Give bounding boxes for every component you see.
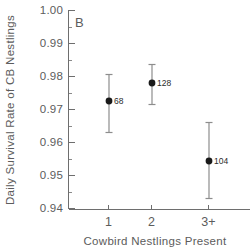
y-tick-label: 0.97 bbox=[40, 103, 63, 115]
y-axis-tick-labels: 1.00 0.99 0.98 0.97 0.96 0.95 0.94 bbox=[40, 4, 64, 214]
data-point-label: 104 bbox=[214, 156, 228, 166]
y-tick-label: 0.96 bbox=[40, 136, 63, 148]
y-axis-title: Daily Survival Rate of CB Nestlings bbox=[4, 15, 16, 205]
data-series: 68 128 104 bbox=[106, 64, 229, 199]
y-tick-label: 1.00 bbox=[40, 4, 63, 16]
data-marker bbox=[149, 80, 156, 87]
panel-label: B bbox=[75, 15, 84, 30]
data-point-group: 68 bbox=[106, 74, 124, 133]
x-axis-ticks bbox=[109, 205, 209, 210]
x-tick-label: 3+ bbox=[201, 215, 216, 229]
y-tick-label: 0.94 bbox=[40, 202, 64, 214]
x-tick-label: 2 bbox=[148, 215, 155, 229]
x-tick-label: 1 bbox=[105, 215, 112, 229]
y-tick-label: 0.98 bbox=[40, 70, 63, 82]
x-axis-title: Cowbird Nestlings Present bbox=[83, 235, 227, 247]
y-axis-major-ticks bbox=[69, 11, 75, 209]
data-point-label: 68 bbox=[114, 96, 124, 106]
data-point-group: 104 bbox=[206, 122, 229, 199]
data-point-label: 128 bbox=[157, 78, 171, 88]
x-axis-tick-labels: 1 2 3+ bbox=[105, 215, 216, 229]
data-marker bbox=[106, 98, 113, 105]
survival-rate-scatter-plot: 1.00 0.99 0.98 0.97 0.96 0.95 0.94 1 2 3… bbox=[0, 0, 252, 251]
data-point-group: 128 bbox=[149, 64, 172, 105]
data-marker bbox=[206, 158, 213, 165]
chart-figure: 1.00 0.99 0.98 0.97 0.96 0.95 0.94 1 2 3… bbox=[0, 0, 252, 251]
y-tick-label: 0.95 bbox=[40, 169, 63, 181]
y-tick-label: 0.99 bbox=[40, 37, 63, 49]
